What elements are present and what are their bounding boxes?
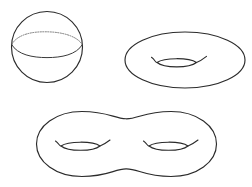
topology-figure-canvas (0, 0, 252, 187)
torus-hole-top-arc-right (197, 56, 207, 62)
double-torus-hole-right-top-arc-right (188, 140, 198, 146)
double-torus-hole-left-top-arc-right (100, 140, 110, 146)
double-torus-hole-left-top-arc (56, 141, 62, 146)
sphere-outline (12, 12, 83, 83)
double-torus-shape (37, 112, 217, 177)
double-torus-outline (37, 112, 217, 177)
torus-shape (125, 32, 245, 88)
sphere-equator-front-solid (12, 45, 83, 58)
torus-outline (125, 32, 245, 88)
double-torus-hole-left-lens (61, 142, 100, 150)
sphere-shape (12, 12, 83, 83)
sphere-equator-back-dotted (12, 32, 83, 45)
torus-hole-top-arc (152, 57, 158, 62)
double-torus-hole-right-lens (149, 142, 188, 150)
torus-hole-lens (157, 59, 197, 67)
double-torus-hole-right-top-arc (144, 141, 150, 146)
